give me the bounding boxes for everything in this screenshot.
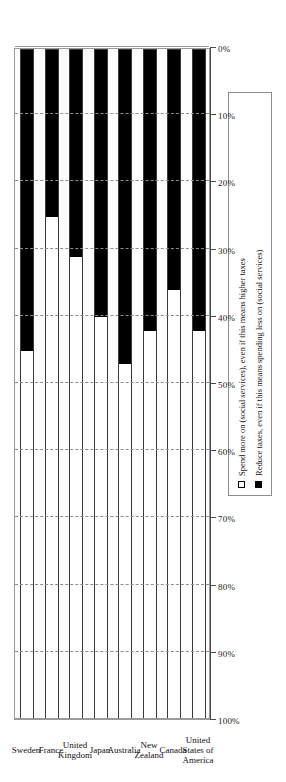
gridline [15, 651, 209, 652]
axis-tick [210, 719, 216, 720]
stacked-bar[interactable] [69, 49, 83, 719]
bar-segment-spend [119, 364, 131, 718]
chart-figure: Spend more on (social services), even if… [0, 0, 286, 782]
gridline [15, 449, 209, 450]
axis-tick-label: 30% [218, 246, 235, 256]
gridline [15, 248, 209, 249]
bar-segment-reduce [119, 50, 131, 364]
bar-row [192, 49, 206, 719]
legend-item-reduce: Reduce taxes, even if this means spendin… [250, 100, 267, 488]
bar-segment-spend [95, 317, 107, 718]
axis-tick-label: 90% [218, 649, 235, 659]
stacked-bar[interactable] [20, 49, 34, 719]
axis-tick-label: 70% [218, 514, 235, 524]
axis-tick-label: 100% [218, 716, 240, 726]
gridline [15, 584, 209, 585]
gridline [15, 113, 209, 114]
gridline [15, 46, 209, 47]
bar-group [15, 49, 209, 719]
stacked-bar[interactable] [143, 49, 157, 719]
bar-row [143, 49, 157, 719]
legend-item-spend: Spend more on (social services), even if… [233, 100, 250, 488]
bar-segment-spend [46, 217, 58, 718]
x-axis [210, 48, 211, 720]
legend: Spend more on (social services), even if… [228, 92, 272, 496]
stacked-bar[interactable] [94, 49, 108, 719]
legend-swatch-spend-icon [238, 481, 245, 488]
axis-tick [210, 114, 216, 115]
axis-tick-label: 80% [218, 582, 235, 592]
bar-segment-spend [70, 257, 82, 718]
bar-row [45, 49, 59, 719]
bar-segment-reduce [168, 50, 180, 290]
legend-label-spend: Spend more on (social services), even if… [237, 258, 247, 476]
stacked-bar[interactable] [192, 49, 206, 719]
axis-tick-label: 10% [218, 111, 235, 121]
legend-label-reduce: Reduce taxes, even if this means spendin… [254, 250, 264, 476]
bar-segment-spend [193, 331, 205, 718]
bar-segment-reduce [193, 50, 205, 331]
category-label: United States of America [186, 726, 211, 774]
bar-row [69, 49, 83, 719]
axis-tick [210, 249, 216, 250]
stacked-bar[interactable] [167, 49, 181, 719]
gridline [15, 315, 209, 316]
gridline [15, 516, 209, 517]
axis-tick [210, 450, 216, 451]
bar-segment-reduce [144, 50, 156, 331]
bar-segment-spend [168, 290, 180, 718]
bar-row [118, 49, 132, 719]
rotated-figure-container: Spend more on (social services), even if… [0, 0, 286, 782]
stacked-bar[interactable] [118, 49, 132, 719]
axis-tick [210, 316, 216, 317]
axis-tick [210, 585, 216, 586]
bar-segment-spend [21, 351, 33, 718]
axis-tick-label: 0% [218, 44, 230, 54]
axis-tick [210, 383, 216, 384]
bar-row [94, 49, 108, 719]
axis-tick [210, 652, 216, 653]
gridline [15, 382, 209, 383]
category-label-text: United States of America [174, 735, 222, 765]
axis-tick-label: 50% [218, 380, 235, 390]
axis-tick [210, 47, 216, 48]
bar-segment-spend [144, 331, 156, 718]
gridline [15, 718, 209, 719]
axis-tick [210, 181, 216, 182]
gridline [15, 180, 209, 181]
bar-row [20, 49, 34, 719]
bar-row [167, 49, 181, 719]
axis-tick-label: 40% [218, 313, 235, 323]
plot-area [14, 48, 210, 720]
bar-segment-reduce [46, 50, 58, 217]
bar-segment-reduce [21, 50, 33, 351]
axis-tick-label: 60% [218, 447, 235, 457]
axis-tick [210, 517, 216, 518]
bar-segment-reduce [95, 50, 107, 317]
stacked-bar[interactable] [45, 49, 59, 719]
axis-tick-label: 20% [218, 178, 235, 188]
bar-segment-reduce [70, 50, 82, 257]
legend-swatch-reduce-icon [255, 481, 262, 488]
